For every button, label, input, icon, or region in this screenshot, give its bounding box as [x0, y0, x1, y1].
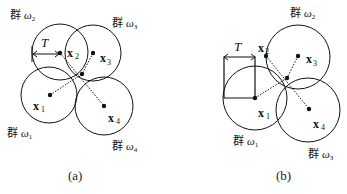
point-x2 — [58, 51, 62, 55]
point-label-x1: x1 — [33, 99, 45, 114]
caption-b: (b) — [276, 168, 291, 184]
point-label-x2: x2 — [258, 41, 269, 56]
point-label-x1: x1 — [258, 106, 270, 121]
cluster-label-omega1: 群ω1 — [233, 134, 259, 149]
panel-b-points — [253, 54, 311, 111]
cluster-label-omega2: 群ω2 — [290, 6, 316, 21]
point-label-x2: x2 — [67, 46, 79, 61]
diagram-canvas: T x2 x3 x1 x4 群ω2 群ω3 群ω1 群ω4 T x2 x3 x1… — [0, 0, 347, 194]
cluster-label-omega4: 群ω4 — [112, 139, 138, 154]
point-x3 — [91, 51, 95, 55]
point-label-x4: x4 — [108, 111, 120, 126]
threshold-bracket — [224, 57, 255, 98]
cluster-label-omega1: 群ω1 — [7, 126, 33, 141]
point-label-x3: x3 — [306, 52, 317, 68]
cluster-label-omega3: 群ω3 — [308, 147, 334, 162]
threshold-label: T — [234, 39, 242, 54]
point-x4 — [102, 104, 106, 108]
cluster-label-omega3: 群ω3 — [112, 16, 138, 31]
point-x4 — [307, 107, 311, 111]
threshold-label: T — [41, 35, 49, 50]
cluster-label-omega2: 群ω2 — [10, 8, 36, 23]
point-label-x3: x3 — [100, 51, 111, 67]
point-center — [80, 72, 84, 76]
caption-a: (a) — [68, 168, 82, 184]
dotted-links — [255, 56, 309, 109]
point-x1 — [253, 96, 257, 100]
point-label-x4: x4 — [313, 117, 325, 132]
point-x3 — [296, 54, 300, 58]
point-x1 — [48, 93, 52, 97]
point-center — [285, 76, 289, 80]
